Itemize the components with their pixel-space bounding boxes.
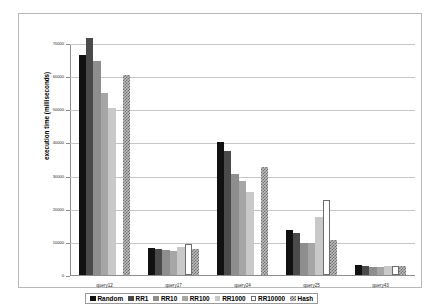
bar[interactable] [155, 249, 162, 275]
bar[interactable] [148, 248, 155, 275]
legend-item[interactable]: RR1000 [215, 296, 246, 302]
bar[interactable] [162, 250, 169, 275]
y-axis-tick-label: 20000 [53, 208, 64, 212]
bar[interactable] [355, 265, 362, 275]
y-axis-tick [66, 77, 70, 78]
bar[interactable] [246, 192, 253, 275]
bar[interactable] [384, 266, 391, 275]
legend-swatch [251, 296, 257, 302]
y-axis-tick [66, 143, 70, 144]
x-axis-category-label: query25 [303, 283, 320, 288]
legend-item[interactable]: RR10 [153, 296, 177, 302]
y-axis-line [70, 44, 71, 276]
x-axis-category-label: query24 [234, 283, 251, 288]
y-axis-tick-label: 50000 [53, 108, 64, 112]
bar[interactable] [123, 75, 130, 276]
y-axis-tick [66, 44, 70, 45]
bar[interactable] [101, 93, 108, 275]
bar[interactable] [239, 181, 246, 275]
plot-area: 010000200003000040000500006000070000 que… [70, 44, 415, 276]
legend-label: RR100 [190, 296, 210, 302]
legend-swatch [290, 296, 296, 302]
bar[interactable] [315, 217, 322, 275]
bar[interactable] [177, 247, 184, 276]
bar[interactable] [377, 267, 384, 275]
legend-label: RR10 [161, 296, 177, 302]
legend-item[interactable]: RR1 [128, 296, 148, 302]
bar[interactable] [217, 142, 224, 275]
x-axis-category-label: query43 [372, 283, 389, 288]
x-axis-category-label: query12 [96, 283, 113, 288]
legend-swatch [128, 296, 134, 302]
bar[interactable] [93, 61, 100, 275]
bar-group [355, 43, 407, 275]
bar-group [217, 43, 269, 275]
legend-label: RR1000 [222, 296, 245, 302]
bar[interactable] [330, 240, 337, 275]
y-axis-tick-label: 30000 [53, 174, 64, 178]
bar-group [148, 43, 200, 275]
bar[interactable] [293, 233, 300, 275]
legend-swatch [182, 296, 188, 302]
legend-swatch [90, 296, 96, 302]
bar[interactable] [399, 266, 406, 275]
bar[interactable] [170, 251, 177, 275]
bar[interactable] [323, 200, 330, 275]
legend-label: RR10000 [258, 296, 285, 302]
y-axis-tick [66, 210, 70, 211]
legend-item[interactable]: RR10000 [251, 296, 286, 302]
y-axis-tick-label: 70000 [53, 42, 64, 46]
bar[interactable] [362, 266, 369, 275]
bar[interactable] [185, 244, 192, 275]
y-axis-tick [66, 110, 70, 111]
legend-item[interactable]: Hash [290, 296, 313, 302]
y-axis-tick [66, 276, 70, 277]
legend-swatch [215, 296, 221, 302]
bar[interactable] [86, 38, 93, 275]
legend-label: Hash [298, 296, 314, 302]
legend-item[interactable]: Random [90, 296, 123, 302]
bar[interactable] [231, 174, 238, 275]
bar[interactable] [224, 151, 231, 275]
y-axis-tick-label: 60000 [53, 75, 64, 79]
bar[interactable] [192, 249, 199, 275]
x-axis-category-label: query17 [165, 283, 182, 288]
chart-frame: execution time (milliseconds) 0100002000… [18, 13, 422, 288]
bar[interactable] [286, 230, 293, 275]
legend-item[interactable]: RR100 [182, 296, 209, 302]
chart-legend: RandomRR1RR10RR100RR1000RR10000Hash [85, 293, 318, 304]
bar[interactable] [308, 243, 315, 275]
legend-label: Random [98, 296, 124, 302]
bar-group [79, 43, 131, 275]
x-axis-line [70, 275, 415, 276]
y-axis-tick-label: 0 [62, 274, 64, 278]
bar[interactable] [369, 267, 376, 275]
y-axis-tick-label: 40000 [53, 141, 64, 145]
legend-swatch [153, 296, 159, 302]
bar[interactable] [261, 167, 268, 275]
bar[interactable] [79, 55, 86, 275]
bar-group [286, 43, 338, 275]
y-axis-tick-label: 10000 [53, 241, 64, 245]
y-axis-title: execution time (milliseconds) [43, 72, 50, 160]
bar[interactable] [392, 266, 399, 275]
legend-label: RR1 [136, 296, 149, 302]
y-axis-tick [66, 177, 70, 178]
bar[interactable] [108, 108, 115, 275]
bar[interactable] [300, 243, 307, 275]
y-axis-tick [66, 243, 70, 244]
